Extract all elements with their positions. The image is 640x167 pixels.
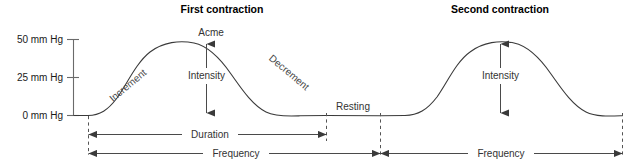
resting-label: Resting — [336, 101, 370, 112]
frequency-label-second: Frequency — [477, 148, 524, 159]
title-second-contraction: Second contraction — [451, 3, 549, 15]
y-axis: 50 mm Hg 25 mm Hg 0 mm Hg — [17, 34, 79, 121]
acme-label: Acme — [198, 27, 224, 38]
intensity-label-first: Intensity — [188, 70, 225, 81]
y-axis-label-0: 0 mm Hg — [22, 110, 63, 121]
increment-label-group: Increment — [107, 67, 148, 104]
uterine-contraction-diagram: First contraction Second contraction 50 … — [0, 0, 640, 167]
increment-label: Increment — [107, 67, 148, 104]
title-first-contraction: First contraction — [181, 3, 264, 15]
intensity-arrow-first: Intensity — [188, 44, 225, 113]
duration-measure: Duration — [89, 128, 327, 141]
frequency-measure-second: Frequency — [381, 147, 623, 160]
decrement-label-group: Decrement — [267, 52, 312, 92]
y-axis-label-50: 50 mm Hg — [17, 34, 63, 45]
contraction-waveform-chart: First contraction Second contraction 50 … — [0, 0, 640, 167]
duration-label: Duration — [191, 129, 229, 140]
frequency-measure-first: Frequency — [89, 147, 381, 160]
y-axis-label-25: 25 mm Hg — [17, 72, 63, 83]
frequency-label-first: Frequency — [212, 148, 259, 159]
intensity-label-second: Intensity — [482, 70, 519, 81]
intensity-arrow-second: Intensity — [482, 44, 519, 113]
decrement-label: Decrement — [267, 52, 312, 92]
